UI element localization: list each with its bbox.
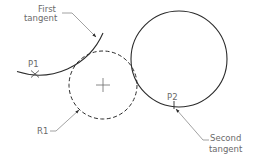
second-tangent-label-line2: tangent — [209, 144, 243, 154]
center-mark-icon — [96, 78, 110, 92]
r1-leader — [50, 110, 79, 131]
p2-label: P2 — [167, 92, 178, 102]
second-tangent-circle — [131, 11, 227, 107]
r1-label: R1 — [37, 126, 48, 136]
p1-marker-icon — [31, 71, 39, 78]
first-tangent-leader — [62, 13, 96, 37]
second-tangent-leader — [176, 109, 209, 140]
p1-label: P1 — [28, 59, 39, 69]
diagram-canvas: First tangent P1 P2 R1 Second tangent — [0, 0, 256, 162]
first-tangent-label-line2: tangent — [24, 13, 58, 23]
second-tangent-label-line1: Second — [210, 133, 241, 143]
